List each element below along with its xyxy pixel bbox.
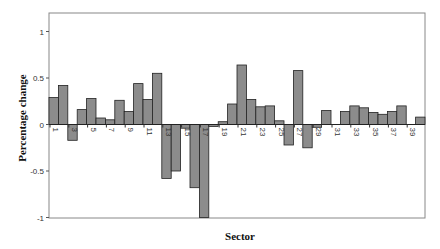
bar: [322, 111, 331, 125]
x-tick-label: 37: [389, 128, 398, 137]
bar: [77, 110, 86, 125]
bar: [265, 106, 274, 125]
bar: [256, 107, 265, 125]
bar: [105, 120, 114, 125]
x-tick-label: 3: [70, 128, 79, 133]
bar: [49, 98, 58, 125]
x-tick-label: 17: [201, 128, 210, 137]
x-tick-label: 9: [126, 128, 135, 133]
x-tick-label: 23: [258, 128, 267, 137]
bar: [387, 112, 396, 125]
bar: [350, 106, 359, 125]
bar: [378, 114, 387, 124]
x-tick-label: 21: [239, 128, 248, 137]
x-tick-label: 7: [107, 128, 116, 133]
bar: [87, 99, 96, 125]
x-tick-label: 33: [352, 128, 361, 137]
bar: [143, 99, 152, 124]
bar: [96, 118, 105, 125]
bar: [397, 106, 406, 125]
y-axis-label: Percentage change: [16, 58, 28, 178]
x-tick-label: 39: [408, 128, 417, 137]
x-axis-label: Sector: [200, 230, 280, 242]
x-tick-label: 1: [51, 128, 60, 133]
bar: [124, 112, 133, 125]
bar: [275, 121, 284, 125]
x-tick-label: 5: [89, 128, 98, 133]
bar: [246, 99, 255, 124]
x-tick-label: 35: [371, 128, 380, 137]
bar: [58, 85, 67, 124]
y-tick-label: 0: [40, 121, 45, 130]
bar: [416, 117, 425, 124]
y-tick-label: -0.5: [30, 167, 44, 176]
plot-area: 10.50-0.5-113579111315171921232527293133…: [0, 0, 440, 249]
x-tick-label: 27: [295, 128, 304, 137]
bar: [228, 104, 237, 125]
x-tick-label: 31: [333, 128, 342, 137]
bar: [369, 112, 378, 124]
bar: [134, 84, 143, 125]
bar: [152, 73, 161, 124]
x-tick-label: 19: [220, 128, 229, 137]
x-tick-label: 29: [314, 128, 323, 137]
y-tick-label: 1: [40, 28, 45, 37]
x-tick-label: 15: [183, 128, 192, 137]
bar: [340, 112, 349, 125]
x-tick-label: 11: [145, 128, 154, 137]
y-tick-label: 0.5: [33, 74, 45, 83]
x-tick-label: 25: [277, 128, 286, 137]
bar: [359, 108, 368, 125]
bar: [115, 100, 124, 124]
y-tick-label: -1: [37, 214, 45, 223]
bar: [237, 65, 246, 125]
bar: [199, 125, 208, 218]
bar: [293, 71, 302, 125]
bar-chart: 10.50-0.5-113579111315171921232527293133…: [0, 0, 440, 249]
x-tick-label: 13: [164, 128, 173, 137]
